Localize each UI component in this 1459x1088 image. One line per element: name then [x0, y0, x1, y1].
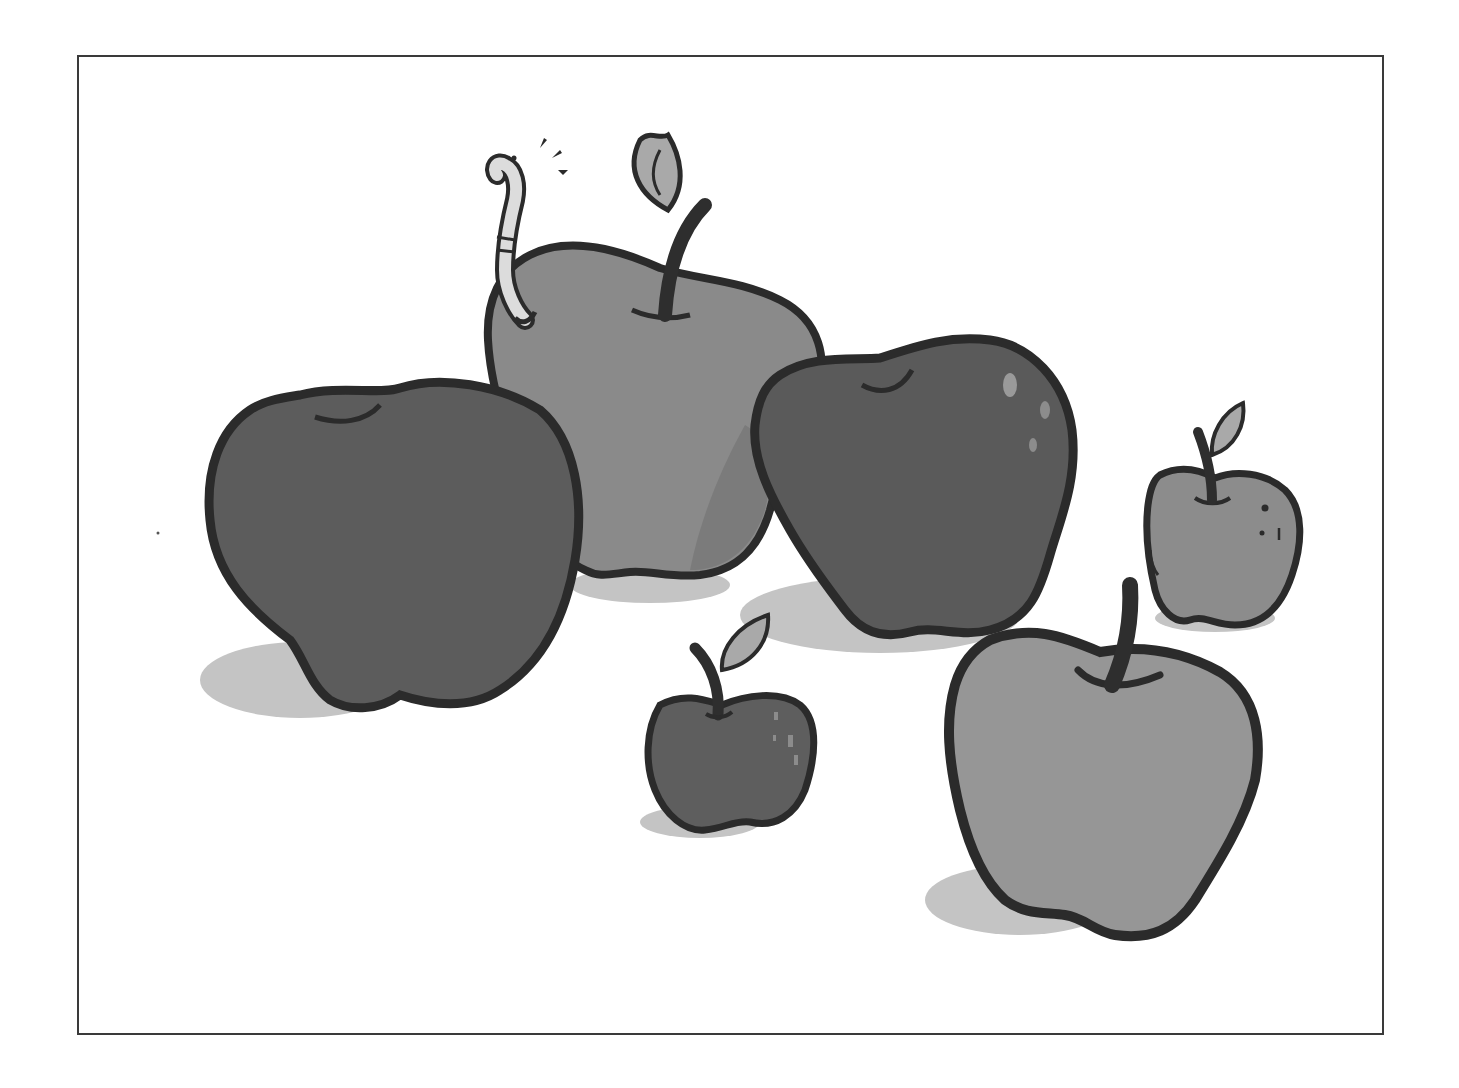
- stray-dot: [157, 532, 160, 535]
- worm-motion-marks: [540, 138, 568, 175]
- highlight: [1040, 401, 1050, 419]
- highlight: [794, 755, 798, 765]
- highlight: [788, 735, 793, 747]
- worm-segment: [497, 250, 515, 252]
- highlight: [1003, 373, 1017, 397]
- highlight: [1029, 438, 1037, 452]
- small-apple-far-right: [1147, 403, 1300, 625]
- small-dark-apple-bottom-center: [648, 615, 814, 830]
- apple-body: [1147, 469, 1300, 625]
- apple-body: [949, 633, 1258, 937]
- speckle: [1262, 505, 1269, 512]
- highlight: [773, 735, 776, 741]
- leaf-icon: [1212, 403, 1244, 455]
- speckle: [1260, 531, 1265, 536]
- highlight: [774, 712, 778, 720]
- worm-eye: [512, 156, 517, 161]
- leaf-icon: [634, 135, 680, 210]
- apple-body: [648, 696, 814, 831]
- large-light-apple-bottom-right: [949, 585, 1258, 936]
- apples-illustration: [0, 0, 1459, 1088]
